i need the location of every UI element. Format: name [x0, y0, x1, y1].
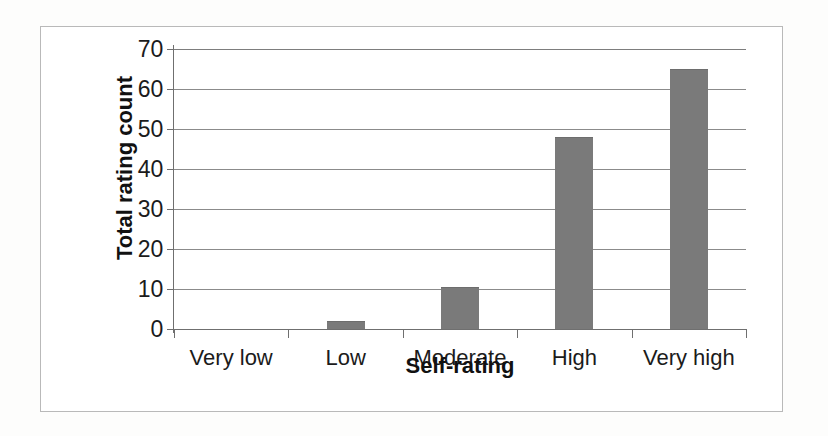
x-axis-ticks — [174, 329, 746, 338]
x-tick — [517, 329, 518, 338]
y-tick-40 — [167, 169, 174, 170]
y-tick-70 — [167, 49, 174, 50]
y-tick-10 — [167, 289, 174, 290]
y-tick-50 — [167, 129, 174, 130]
y-axis-tick-label: 70 — [138, 36, 163, 63]
chart-frame: Total rating count 010203040506070 Very … — [40, 26, 783, 412]
x-tick — [746, 329, 747, 338]
y-axis-tick-label: 40 — [138, 156, 163, 183]
plot-area: 010203040506070 Very lowLowModerateHighV… — [174, 49, 746, 329]
y-tick-30 — [167, 209, 174, 210]
bar — [555, 137, 593, 329]
y-tick-20 — [167, 249, 174, 250]
y-axis-tick-label: 20 — [138, 236, 163, 263]
x-tick — [632, 329, 633, 338]
bar — [441, 287, 479, 329]
bar — [670, 69, 708, 329]
bar — [327, 321, 365, 329]
y-axis-tick-label: 60 — [138, 76, 163, 103]
y-axis-tick-label: 0 — [150, 316, 163, 343]
bars-layer — [174, 49, 746, 329]
page-background: Total rating count 010203040506070 Very … — [0, 0, 828, 436]
y-axis-tick-label: 10 — [138, 276, 163, 303]
x-axis-title: Self-rating — [174, 353, 746, 379]
x-tick — [174, 329, 175, 338]
y-axis-title: Total rating count — [112, 38, 138, 298]
x-tick — [403, 329, 404, 338]
y-axis-tick-label: 50 — [138, 116, 163, 143]
y-axis-tick-label: 30 — [138, 196, 163, 223]
y-tick-60 — [167, 89, 174, 90]
y-tick-0 — [167, 329, 174, 330]
x-tick — [288, 329, 289, 338]
